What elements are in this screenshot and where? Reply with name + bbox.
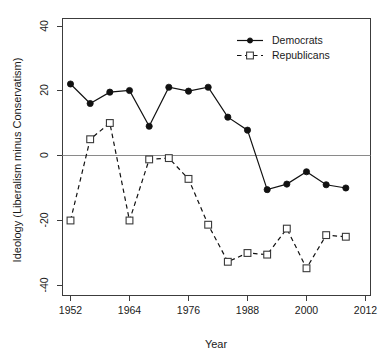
data-point	[224, 258, 231, 265]
data-point	[126, 217, 133, 224]
legend-entry-democrats: Democrats	[237, 34, 323, 46]
ideology-line-chart: Ideology (Liberalism minus Conservatism)…	[0, 0, 387, 361]
legend-label-democrats: Democrats	[272, 34, 323, 46]
data-point	[185, 176, 192, 183]
data-point	[284, 181, 290, 187]
data-point	[283, 225, 290, 232]
y-tick-label-0: 0	[38, 152, 50, 158]
x-axis-ticks	[71, 296, 366, 302]
chart-figure: Ideology (Liberalism minus Conservatism)…	[0, 0, 387, 361]
data-point	[205, 84, 211, 90]
data-point	[225, 114, 231, 120]
data-point	[342, 233, 349, 240]
data-point	[146, 123, 152, 129]
data-point	[126, 87, 132, 93]
data-point	[303, 265, 310, 272]
series-line-republicans	[71, 123, 346, 268]
data-point	[87, 100, 93, 106]
x-axis-title: Year	[205, 338, 228, 350]
data-point	[205, 221, 212, 228]
y-axis-ticks	[57, 27, 63, 286]
data-point	[166, 84, 172, 90]
x-tick-label-1976: 1976	[177, 304, 201, 316]
data-point	[343, 185, 349, 191]
data-point	[323, 232, 330, 239]
data-point	[244, 250, 251, 257]
data-point	[264, 251, 271, 258]
x-tick-label-1952: 1952	[59, 304, 83, 316]
data-point	[67, 81, 73, 87]
data-point	[87, 136, 94, 143]
data-point	[107, 89, 113, 95]
y-axis-title: Ideology (Liberalism minus Conservatism)	[11, 58, 23, 263]
legend-entry-republicans: Republicans	[237, 49, 330, 61]
data-point	[303, 169, 309, 175]
data-point	[165, 155, 172, 162]
y-tick-label-20: 20	[38, 84, 50, 96]
data-point	[185, 88, 191, 94]
series-republicans	[67, 120, 349, 272]
data-point	[244, 127, 250, 133]
data-point	[106, 120, 113, 127]
data-point	[323, 182, 329, 188]
y-tick-label-minus20: -20	[38, 212, 50, 227]
y-tick-label-40: 40	[38, 20, 50, 32]
data-point	[264, 187, 270, 193]
series-layer	[67, 81, 349, 272]
x-tick-label-2000: 2000	[295, 304, 319, 316]
x-tick-label-1964: 1964	[118, 304, 142, 316]
data-point	[146, 156, 153, 163]
y-tick-label-minus40: -40	[38, 277, 50, 292]
data-point	[67, 217, 74, 224]
series-democrats	[67, 81, 349, 193]
x-tick-label-1988: 1988	[236, 304, 260, 316]
chart-legend: Democrats Republicans	[237, 34, 330, 61]
legend-label-republicans: Republicans	[272, 49, 330, 61]
x-tick-label-2012: 2012	[354, 304, 378, 316]
